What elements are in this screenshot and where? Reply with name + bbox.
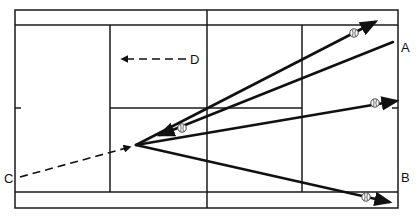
label-b: B xyxy=(401,170,410,185)
tennis-ball-icon xyxy=(362,193,370,201)
label-d: D xyxy=(190,52,199,67)
tennis-court-diagram: A B C D xyxy=(0,0,420,217)
movement-from-c xyxy=(20,147,130,177)
tennis-ball-icon xyxy=(371,99,379,107)
label-c: C xyxy=(4,171,13,186)
tennis-ball-icon xyxy=(350,29,358,37)
tennis-ball-icon xyxy=(178,124,186,132)
shot-to-top-doubles-alley xyxy=(136,22,375,145)
shot-to-bottom-doubles-alley xyxy=(136,145,389,202)
label-a: A xyxy=(401,40,410,55)
shots xyxy=(20,22,396,202)
